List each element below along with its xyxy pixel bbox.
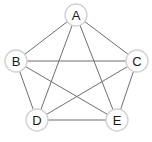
graph-edge-b-e bbox=[25, 67, 107, 115]
graph-node-c: C bbox=[126, 50, 148, 72]
graph-node-b: B bbox=[5, 50, 27, 72]
graph-edge-c-d bbox=[46, 67, 127, 115]
graph-node-e: E bbox=[106, 109, 128, 131]
node-label-b: B bbox=[12, 54, 21, 69]
node-label-a: A bbox=[72, 8, 81, 23]
node-label-c: C bbox=[132, 54, 141, 69]
edge-layer bbox=[20, 22, 134, 120]
graph-canvas: ABCDE bbox=[0, 0, 152, 142]
graph-edge-b-d bbox=[20, 71, 34, 109]
graph-edge-a-c bbox=[85, 22, 128, 55]
node-label-d: D bbox=[32, 113, 41, 128]
node-label-e: E bbox=[113, 113, 122, 128]
graph-edge-a-b bbox=[25, 22, 68, 55]
graph-figure: ABCDE bbox=[0, 0, 152, 142]
graph-node-a: A bbox=[65, 4, 87, 26]
graph-edge-c-e bbox=[121, 71, 134, 109]
graph-edge-a-e bbox=[80, 25, 113, 110]
graph-node-d: D bbox=[26, 109, 48, 131]
